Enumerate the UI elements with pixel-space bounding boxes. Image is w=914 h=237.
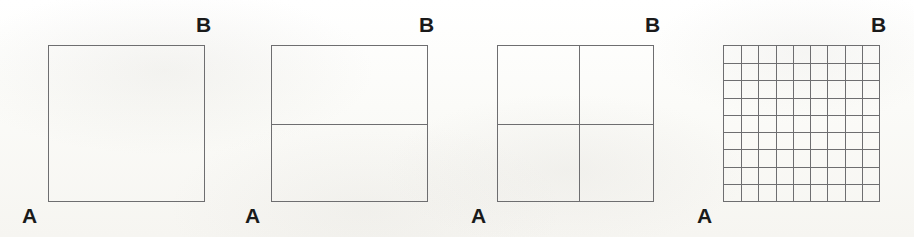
subdivided-squares-figure: B A B A B A B A bbox=[0, 0, 914, 237]
panel-4-grid-vertical-line bbox=[862, 46, 863, 201]
panel-2-label-a: A bbox=[245, 205, 260, 226]
panel-4-grid-horizontal-line bbox=[724, 80, 879, 81]
panel-2-horizontal-divider bbox=[272, 124, 427, 125]
panel-4-grid-vertical-line bbox=[741, 46, 742, 201]
panel-4-label-a: A bbox=[697, 205, 712, 226]
panel-1-square bbox=[48, 45, 205, 202]
panel-4-grid-vertical-line bbox=[810, 46, 811, 201]
panel-4-grid-horizontal-line bbox=[724, 149, 879, 150]
panel-3-vertical-divider bbox=[579, 46, 580, 201]
figure-panel-4: B A bbox=[675, 0, 905, 237]
panel-4-grid-horizontal-line bbox=[724, 63, 879, 64]
panel-4-grid-vertical-line bbox=[827, 46, 828, 201]
figure-panel-1: B A bbox=[0, 0, 230, 237]
panel-3-horizontal-divider bbox=[498, 124, 653, 125]
panel-4-grid-vertical-line bbox=[758, 46, 759, 201]
panel-4-grid-vertical-line bbox=[793, 46, 794, 201]
panel-3-square bbox=[497, 45, 654, 202]
panel-4-grid-horizontal-line bbox=[724, 115, 879, 116]
panel-1-label-b: B bbox=[196, 14, 211, 35]
panel-2-square bbox=[271, 45, 428, 202]
panel-4-grid-vertical-line bbox=[845, 46, 846, 201]
panel-4-grid-horizontal-line bbox=[724, 184, 879, 185]
figure-panel-2: B A bbox=[223, 0, 453, 237]
panel-4-grid-lines bbox=[724, 46, 879, 201]
panel-1-label-a: A bbox=[22, 205, 37, 226]
panel-4-grid-horizontal-line bbox=[724, 132, 879, 133]
panel-4-grid-horizontal-line bbox=[724, 167, 879, 168]
panel-2-label-b: B bbox=[419, 14, 434, 35]
panel-3-label-a: A bbox=[471, 205, 486, 226]
panel-4-label-b: B bbox=[871, 14, 886, 35]
figure-panel-3: B A bbox=[449, 0, 679, 237]
panel-3-label-b: B bbox=[645, 14, 660, 35]
panel-4-square bbox=[723, 45, 880, 202]
panel-4-grid-horizontal-line bbox=[724, 98, 879, 99]
panel-4-grid-vertical-line bbox=[776, 46, 777, 201]
